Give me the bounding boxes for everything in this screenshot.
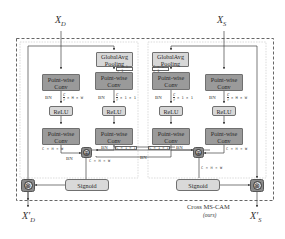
left-sigmoid: Signoid bbox=[65, 179, 109, 191]
left-global-relu: ReLU bbox=[102, 106, 126, 116]
left-global-conv-2: Point-wiseConv bbox=[95, 128, 133, 145]
right-mul-op: ⊗ bbox=[250, 179, 264, 192]
diagram-title: Cross MS-CAM bbox=[187, 203, 230, 210]
dim-label: C × H × W bbox=[89, 159, 110, 163]
right-sigmoid: Signoid bbox=[176, 179, 220, 191]
right-local-conv-2: Point-wiseConv bbox=[205, 128, 243, 145]
bn-label: BN bbox=[45, 95, 52, 100]
right-add-op: ⊕ bbox=[193, 147, 204, 158]
dim-label: Cr× 1 × 1 bbox=[116, 93, 136, 102]
bn-label: BN bbox=[140, 155, 147, 160]
dim-label: C × 1 × 1 bbox=[152, 67, 169, 71]
input-x-d: XD bbox=[55, 14, 66, 27]
diagram-lines bbox=[0, 0, 285, 239]
dim-label: Cr× 1 × 1 bbox=[173, 93, 193, 102]
dim-label: C × 1 × 1 bbox=[115, 146, 137, 150]
left-mul-op: ⊗ bbox=[21, 179, 35, 192]
output-x-d: X′D bbox=[22, 210, 35, 223]
left-add-op: ⊕ bbox=[81, 147, 92, 158]
right-local-relu: ReLU bbox=[212, 106, 236, 116]
input-x-s: XS bbox=[217, 14, 226, 27]
dim-label: Cr× H × W bbox=[227, 93, 247, 102]
bn-label: BN bbox=[176, 145, 183, 150]
dim-label: C × H × W bbox=[201, 166, 222, 170]
right-global-relu: ReLU bbox=[159, 106, 183, 116]
dim-label: C × 1 × 1 bbox=[116, 67, 133, 71]
left-global-conv-1: Point-wiseConv bbox=[95, 72, 133, 90]
outer-dashed-frame bbox=[17, 39, 274, 201]
left-local-conv-2: Point-wiseConv bbox=[42, 128, 80, 145]
right-global-conv-1: Point-wiseConv bbox=[152, 72, 190, 90]
left-local-conv-1: Point-wiseConv bbox=[42, 74, 80, 91]
bn-label: BN bbox=[155, 95, 162, 100]
bn-label: BN bbox=[66, 156, 73, 161]
left-local-relu: ReLU bbox=[49, 106, 73, 116]
bn-label: BN bbox=[209, 95, 216, 100]
dim-label: C × 1 × 1 bbox=[148, 146, 170, 150]
dim-label: C × H × W bbox=[42, 147, 63, 151]
dim-label: C × H × W bbox=[226, 147, 247, 151]
bn-label: BN bbox=[101, 145, 108, 150]
bn-label: BN bbox=[98, 95, 105, 100]
output-x-s: X′S bbox=[250, 210, 262, 223]
right-local-conv-1: Point-wiseConv bbox=[205, 74, 243, 91]
right-global-conv-2: Point-wiseConv bbox=[152, 128, 190, 145]
dim-label: Cr× H × W bbox=[63, 93, 83, 102]
diagram-subtitle: (ours) bbox=[203, 212, 216, 218]
